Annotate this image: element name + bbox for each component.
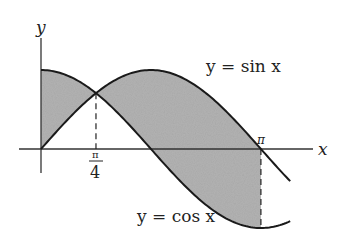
area-between-curves-diagram: y x y = sin x y = cos x π 4 π [0,0,354,244]
cos-curve-label: y = cos x [136,206,216,226]
y-axis-label: y [35,17,46,37]
tick-label-pi: π [256,133,266,147]
x-axis-label: x [318,139,328,159]
sin-curve-label: y = sin x [205,56,281,76]
tick-label-pi-over-4-numerator: π [92,149,99,160]
tick-label-pi-over-4-denominator: 4 [90,163,100,182]
